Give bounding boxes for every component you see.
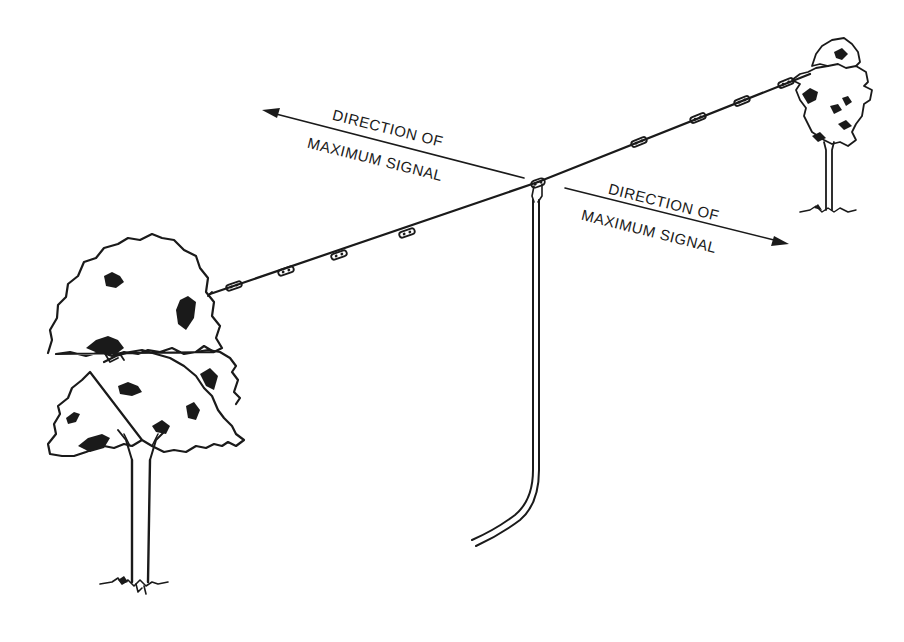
small-tree-icon bbox=[792, 38, 872, 212]
diagram-canvas bbox=[0, 0, 904, 642]
antenna-diagram: DIRECTION OF MAXIMUM SIGNAL DIRECTION OF… bbox=[0, 0, 904, 642]
twin-lead-feedline[interactable] bbox=[472, 200, 539, 546]
large-tree-icon bbox=[48, 234, 244, 594]
insulators-left bbox=[225, 228, 415, 292]
dipole-wire[interactable] bbox=[208, 74, 810, 296]
